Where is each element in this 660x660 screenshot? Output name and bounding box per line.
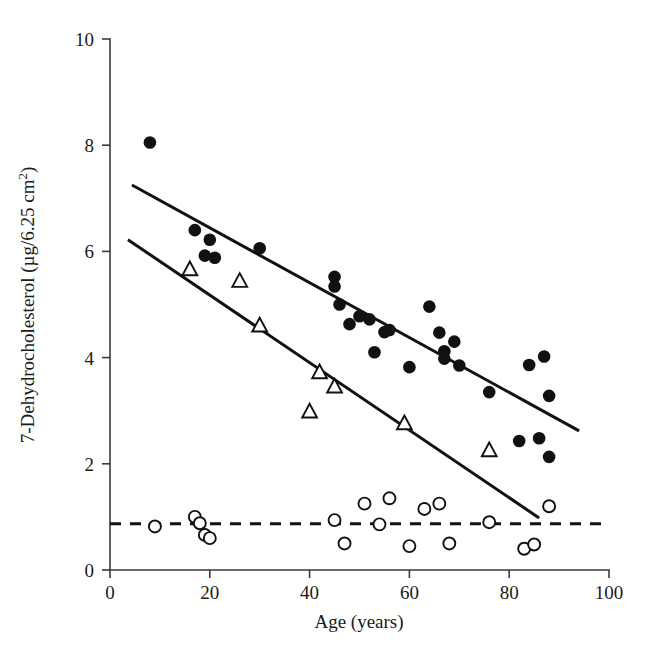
- data-point-filled-circle: [144, 136, 157, 149]
- data-point-open-circle: [433, 498, 445, 510]
- scatter-plot-figure: 020406080100 0246810 Age (years) 7-Dehyd…: [0, 0, 660, 660]
- x-tick-label: 20: [200, 582, 219, 603]
- y-tick-label: 8: [85, 135, 95, 156]
- data-point-open-circle: [528, 539, 540, 551]
- x-axis-title: Age (years): [314, 611, 403, 633]
- data-point-open-circle: [483, 516, 495, 528]
- data-point-triangle: [327, 379, 342, 393]
- y-axis-title-close: ): [17, 167, 39, 173]
- y-axis-title-main: 7-Dehydrocholesterol (µg/6.25 cm: [17, 179, 39, 443]
- data-point-triangle: [302, 404, 317, 418]
- y-tick-label: 2: [85, 454, 95, 475]
- data-point-filled-circle: [423, 300, 436, 313]
- y-tick-label: 6: [85, 241, 95, 262]
- plot-canvas: 020406080100 0246810 Age (years) 7-Dehyd…: [0, 0, 660, 660]
- data-point-filled-circle: [208, 251, 221, 264]
- data-point-open-circle: [373, 518, 385, 530]
- data-point-filled-circle: [328, 280, 341, 293]
- data-point-open-circle: [383, 492, 395, 504]
- data-point-open-circle: [194, 517, 206, 529]
- data-point-open-circle: [329, 514, 341, 526]
- data-point-filled-circle: [333, 298, 346, 311]
- y-tick-label: 10: [75, 29, 94, 50]
- data-point-filled-circle: [189, 224, 202, 237]
- data-point-filled-circle: [438, 352, 451, 365]
- data-point-filled-circle: [253, 242, 266, 255]
- y-tick-label: 0: [85, 560, 95, 581]
- data-point-open-circle: [443, 537, 455, 549]
- data-point-open-circle: [418, 503, 430, 515]
- y-axis-title: 7-Dehydrocholesterol (µg/6.25 cm2): [15, 167, 39, 444]
- data-point-filled-circle: [538, 350, 551, 363]
- data-point-filled-circle: [523, 359, 536, 372]
- y-axis-ticks: [102, 39, 110, 570]
- data-point-open-circle: [149, 520, 161, 532]
- data-point-filled-circle: [513, 435, 526, 448]
- data-point-filled-circle: [383, 324, 396, 337]
- x-tick-label: 40: [300, 582, 319, 603]
- x-tick-label: 60: [400, 582, 419, 603]
- data-point-filled-circle: [543, 390, 556, 403]
- y-axis-tick-labels: 0246810: [75, 29, 95, 581]
- data-point-filled-circle: [403, 361, 416, 374]
- x-axis-tick-labels: 020406080100: [105, 582, 623, 603]
- data-point-filled-circle: [204, 233, 217, 246]
- series-filled-circles: [144, 136, 556, 463]
- data-point-markers: [144, 136, 556, 555]
- data-point-filled-circle: [433, 326, 446, 339]
- data-group: [110, 136, 609, 555]
- axes-group: 020406080100 0246810: [75, 29, 623, 603]
- data-point-triangle: [232, 273, 247, 287]
- data-point-filled-circle: [453, 359, 466, 372]
- data-point-filled-circle: [543, 451, 556, 464]
- data-point-open-circle: [543, 500, 555, 512]
- data-point-open-circle: [339, 537, 351, 549]
- data-point-filled-circle: [363, 313, 376, 326]
- data-point-filled-circle: [343, 318, 356, 331]
- x-tick-label: 100: [595, 582, 624, 603]
- data-point-triangle: [182, 261, 197, 275]
- data-point-open-circle: [358, 498, 370, 510]
- data-point-filled-circle: [368, 346, 381, 359]
- x-tick-label: 80: [500, 582, 519, 603]
- x-tick-label: 0: [105, 582, 115, 603]
- data-point-filled-circle: [533, 432, 546, 445]
- data-point-open-circle: [403, 540, 415, 552]
- data-point-open-circle: [204, 532, 216, 544]
- y-tick-label: 4: [85, 348, 95, 369]
- x-axis-ticks: [110, 570, 609, 578]
- data-point-triangle: [482, 443, 497, 457]
- data-point-filled-circle: [483, 386, 496, 399]
- data-point-filled-circle: [448, 335, 461, 348]
